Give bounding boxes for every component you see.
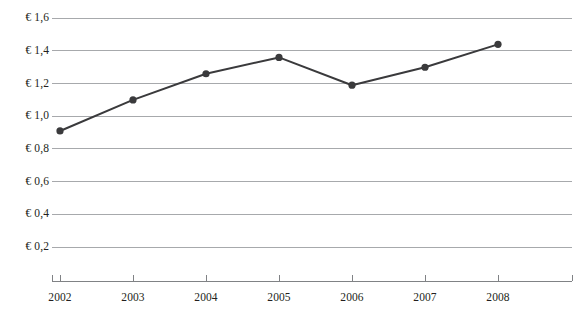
x-axis-tick-label: 2007 [395, 292, 455, 304]
line-chart: € 1,6€ 1,4€ 1,2€ 1,0€ 0,8€ 0,6€ 0,4€ 0,2… [0, 0, 582, 314]
x-axis-tick-label: 2002 [30, 292, 90, 304]
x-axis-tick-label: 2006 [322, 292, 382, 304]
x-axis-tick-label: 2003 [103, 292, 163, 304]
x-axis-tick-labels: 2002200320042005200620072008 [0, 0, 582, 314]
x-axis-tick-label: 2004 [176, 292, 236, 304]
x-axis-tick-label: 2008 [468, 292, 528, 304]
x-axis-tick-label: 2005 [249, 292, 309, 304]
